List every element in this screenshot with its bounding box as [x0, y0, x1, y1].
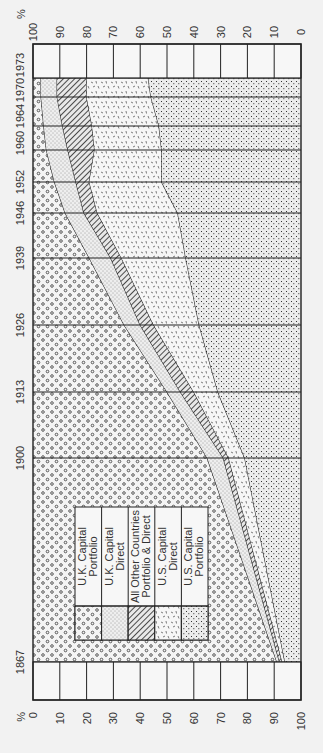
legend-swatch-2 [102, 606, 129, 640]
top-tick-90: 90 [54, 26, 66, 38]
legend-label-1: Portfolio [87, 536, 99, 576]
bottom-tick-100: 100 [295, 712, 307, 730]
percent-symbol-bottom: % [15, 712, 27, 722]
legend-swatch-3 [128, 606, 155, 640]
year-label-1946: 1946 [14, 201, 26, 225]
top-tick-0: 0 [295, 29, 307, 35]
year-label-1926: 1926 [14, 313, 26, 337]
year-label-1964: 1964 [14, 104, 26, 128]
top-tick-40: 40 [188, 26, 200, 38]
bottom-tick-50: 50 [161, 712, 173, 724]
top-tick-60: 60 [134, 26, 146, 38]
bottom-tick-90: 90 [268, 712, 280, 724]
legend-swatch-1 [75, 606, 102, 640]
bottom-tick-60: 60 [188, 712, 200, 724]
bottom-tick-0: 0 [27, 712, 39, 718]
top-tick-70: 70 [107, 26, 119, 38]
top-tick-100: 100 [27, 23, 39, 41]
year-label-1867: 1867 [14, 650, 26, 674]
bottom-tick-70: 70 [215, 712, 227, 724]
year-label-1913: 1913 [14, 380, 26, 404]
legend-swatch-5 [181, 606, 208, 640]
year-label-1900: 1900 [14, 446, 26, 470]
year-label-1939: 1939 [14, 246, 26, 270]
legend-label-3: Portfolio & Direct [140, 515, 152, 598]
bottom-tick-40: 40 [134, 712, 146, 724]
year-label-1960: 1960 [14, 131, 26, 155]
legend-label-4: Direct [167, 542, 179, 571]
top-tick-30: 30 [215, 26, 227, 38]
bottom-tick-80: 80 [241, 712, 253, 724]
percent-symbol-top: % [15, 9, 27, 19]
year-label-1973: 1973 [14, 53, 26, 77]
legend: U.K. CapitalPortfolioU.K. CapitalDirectA… [75, 507, 208, 640]
stacked-area-chart: 1867190019131926193919461952196019641970… [0, 0, 323, 753]
top-tick-10: 10 [268, 26, 280, 38]
bottom-tick-20: 20 [81, 712, 93, 724]
top-tick-50: 50 [161, 26, 173, 38]
legend-label-2: Direct [114, 542, 126, 571]
top-tick-80: 80 [81, 26, 93, 38]
top-tick-20: 20 [241, 26, 253, 38]
legend-label-5: Portfolio [193, 536, 205, 576]
legend-swatch-4 [155, 606, 182, 640]
year-label-1970: 1970 [14, 78, 26, 102]
bottom-tick-10: 10 [54, 712, 66, 724]
bottom-tick-30: 30 [107, 712, 119, 724]
year-label-1952: 1952 [14, 170, 26, 194]
